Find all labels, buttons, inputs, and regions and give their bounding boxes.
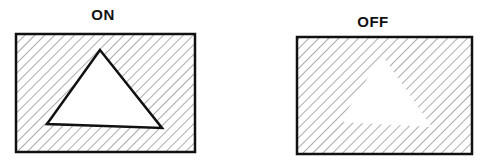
off-panel (297, 37, 472, 154)
diagram-canvas (0, 0, 480, 167)
on-panel (16, 34, 195, 152)
